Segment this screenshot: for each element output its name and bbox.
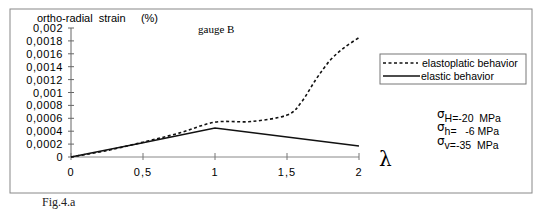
series-group xyxy=(71,38,359,157)
chart: ortho-radial strain (%) gauge B 00,00020… xyxy=(0,0,540,211)
legend: elastoplatic behavior elastic behavior xyxy=(380,54,526,84)
y-tick-label: 0,0016 xyxy=(26,48,63,60)
legend-label-elastic: elastic behavior xyxy=(421,70,494,82)
y-tick-label: 0,0006 xyxy=(26,112,63,124)
series-elastic-line xyxy=(71,128,359,157)
chart-title: gauge B xyxy=(198,23,234,35)
legend-label-elastoplastic: elastoplatic behavior xyxy=(422,57,518,69)
chart-frame xyxy=(10,9,532,193)
y-tick-label: 0,0014 xyxy=(26,61,63,73)
y-tick-label: 0,0002 xyxy=(26,138,63,150)
y-tick-label: 0,0008 xyxy=(26,99,63,111)
series-elastoplastic-line xyxy=(71,38,359,157)
x-tick-label: 1,5 xyxy=(278,166,296,178)
x-tick-label: 1 xyxy=(211,166,218,178)
y-tick-label: 0,002 xyxy=(33,22,63,34)
axes: 00,00020,00040,00060,00080,0010,00120,00… xyxy=(26,22,362,178)
x-tick-label: 0,5 xyxy=(134,166,152,178)
y-tick-label: 0 xyxy=(56,151,63,163)
x-tick-label: 0 xyxy=(67,166,74,178)
stress-annotations: σH=-20 MPaσh= -6 MPaσv=-35 MPa xyxy=(437,107,501,151)
y-tick-label: 0,0004 xyxy=(26,125,63,137)
y-tick-label: 0,001 xyxy=(33,87,63,99)
y-tick-label: 0,0012 xyxy=(26,74,63,86)
x-axis-label: λ xyxy=(379,147,392,171)
x-tick-label: 2 xyxy=(355,166,362,178)
y-tick-label: 0,0018 xyxy=(26,35,63,47)
stress-annotation: σH=-20 MPa xyxy=(437,107,501,124)
figure-label: Fig.4.a xyxy=(42,195,75,210)
